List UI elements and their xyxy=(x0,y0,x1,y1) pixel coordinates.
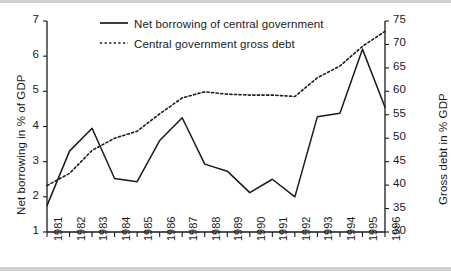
y-axis-left-tick-label: 4 xyxy=(25,119,39,131)
x-axis-tick-label: 1988 xyxy=(210,217,222,241)
x-axis-tick-label: 1987 xyxy=(187,217,199,241)
x-axis-tick-label: 1991 xyxy=(277,217,289,241)
y-axis-right-tick-label: 50 xyxy=(393,130,413,142)
series-line-1 xyxy=(47,31,385,185)
y-axis-right-tick-label: 35 xyxy=(393,201,413,213)
y-axis-right-tick-label: 40 xyxy=(393,177,413,189)
x-axis-tick-label: 1989 xyxy=(232,217,244,241)
y-axis-left-tick-label: 2 xyxy=(25,189,39,201)
x-axis-tick-label: 1983 xyxy=(97,217,109,241)
x-axis-tick-label: 1996 xyxy=(390,217,402,241)
y-axis-left-tick-label: 3 xyxy=(25,154,39,166)
y-axis-right-tick-label: 55 xyxy=(393,107,413,119)
x-axis-tick-label: 1981 xyxy=(52,217,64,241)
axis-layer xyxy=(43,21,389,237)
y-axis-left-tick-label: 6 xyxy=(25,48,39,60)
y-axis-right-tick-label: 45 xyxy=(393,154,413,166)
y-axis-right-tick-label: 70 xyxy=(393,36,413,48)
series-line-0 xyxy=(47,49,385,206)
y-axis-left-tick-label: 7 xyxy=(25,13,39,25)
x-axis-tick-label: 1995 xyxy=(367,217,379,241)
y-axis-right-tick-label: 75 xyxy=(393,13,413,25)
x-axis-tick-label: 1994 xyxy=(345,217,357,241)
series-layer xyxy=(47,23,385,206)
legend-item-net-borrowing-label: Net borrowing of central government xyxy=(134,18,324,30)
y-axis-right-tick-label: 60 xyxy=(393,83,413,95)
x-axis-tick-label: 1986 xyxy=(165,217,177,241)
x-axis-tick-label: 1985 xyxy=(142,217,154,241)
y-axis-left-tick-label: 5 xyxy=(25,83,39,95)
x-axis-tick-label: 1990 xyxy=(255,217,267,241)
y-axis-right-tick-label: 65 xyxy=(393,60,413,72)
x-axis-tick-label: 1992 xyxy=(300,217,312,241)
x-axis-tick-label: 1984 xyxy=(120,217,132,241)
x-axis-tick-label: 1982 xyxy=(75,217,87,241)
y-axis-left-tick-label: 1 xyxy=(25,224,39,236)
x-axis-tick-label: 1993 xyxy=(322,217,334,241)
legend-item-gross-debt-label: Central government gross debt xyxy=(134,38,295,50)
chart-page: Net borrowing in % of GDP Gross debt in … xyxy=(0,0,451,271)
y-axis-right-title: Gross debt in % GDP xyxy=(437,93,449,205)
